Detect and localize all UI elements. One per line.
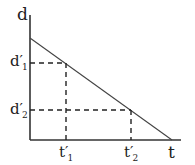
x-axis-label: t [168, 142, 175, 162]
y-axis-label: d [17, 4, 28, 24]
distance-line [30, 38, 172, 140]
t1-label-sub: 1 [67, 153, 73, 163]
t2-label: t′2 [124, 143, 138, 163]
d1-label-sub: 1 [22, 62, 28, 72]
t2-label-sub: 2 [132, 153, 138, 163]
t1-label: t′1 [59, 143, 73, 163]
d1-label: d′1 [10, 52, 28, 72]
d2-label-sub: 2 [22, 110, 28, 120]
d2-label: d′2 [10, 100, 28, 120]
distance-time-diagram: d t d′1 d′2 t′1 t′2 [0, 0, 195, 165]
